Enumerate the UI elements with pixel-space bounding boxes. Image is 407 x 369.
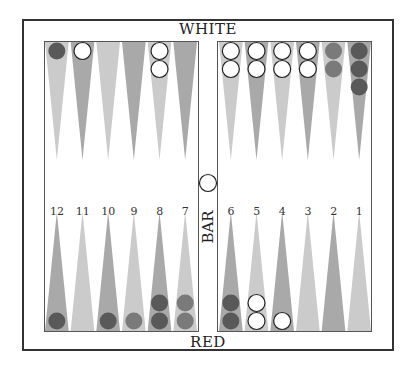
point-number-10: 10 — [95, 205, 121, 218]
point-number-9: 9 — [121, 205, 147, 218]
white-checker[interactable] — [222, 43, 239, 60]
white-checker[interactable] — [248, 295, 265, 312]
white-checker[interactable] — [200, 175, 217, 192]
white-checker[interactable] — [248, 313, 265, 330]
dark-checker[interactable] — [48, 313, 65, 330]
dark-checker[interactable] — [151, 295, 168, 312]
dark-checker[interactable] — [351, 43, 368, 60]
red-checker[interactable] — [177, 295, 194, 312]
dark-checker[interactable] — [48, 43, 65, 60]
point-number-7: 7 — [172, 205, 198, 218]
point-number-2: 2 — [321, 205, 347, 218]
red-checker[interactable] — [325, 43, 342, 60]
dark-checker[interactable] — [222, 313, 239, 330]
point-number-6: 6 — [218, 205, 244, 218]
white-checker[interactable] — [299, 43, 316, 60]
white-checker[interactable] — [151, 61, 168, 78]
white-checker[interactable] — [274, 61, 291, 78]
white-checker[interactable] — [274, 43, 291, 60]
point-number-1: 1 — [346, 205, 372, 218]
white-checker[interactable] — [222, 61, 239, 78]
point-number-5: 5 — [244, 205, 270, 218]
white-checker[interactable] — [299, 61, 316, 78]
white-checker[interactable] — [151, 43, 168, 60]
dark-checker[interactable] — [351, 79, 368, 96]
dark-checker[interactable] — [351, 61, 368, 78]
white-checker[interactable] — [248, 43, 265, 60]
point-number-8: 8 — [147, 205, 173, 218]
point-number-12: 12 — [44, 205, 70, 218]
point-number-4: 4 — [269, 205, 295, 218]
dark-checker[interactable] — [222, 295, 239, 312]
dark-checker[interactable] — [100, 313, 117, 330]
red-checker[interactable] — [325, 61, 342, 78]
dark-checker[interactable] — [151, 313, 168, 330]
red-checker[interactable] — [177, 313, 194, 330]
white-checker[interactable] — [74, 43, 91, 60]
point-number-3: 3 — [295, 205, 321, 218]
red-checker[interactable] — [125, 313, 142, 330]
point-number-11: 11 — [70, 205, 96, 218]
checkers-layer — [0, 0, 407, 369]
white-checker[interactable] — [274, 313, 291, 330]
white-checker[interactable] — [248, 61, 265, 78]
